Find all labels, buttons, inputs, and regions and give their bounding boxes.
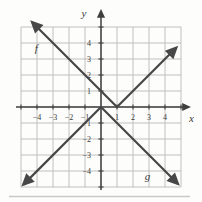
y-tick-label: −3 bbox=[82, 151, 91, 160]
x-tick-label: −3 bbox=[49, 113, 58, 122]
y-tick-label: 1 bbox=[87, 87, 91, 96]
y-axis-label: y bbox=[81, 7, 87, 19]
function-g-label: g bbox=[145, 170, 151, 182]
x-tick-label: −2 bbox=[65, 113, 74, 122]
y-tick-label: 4 bbox=[87, 39, 91, 48]
x-tick-label: 3 bbox=[147, 113, 151, 122]
graph-figure: −4−3−2−112344321−1−2−3−4fgxy bbox=[0, 0, 202, 202]
function-f-line bbox=[32, 22, 176, 107]
x-axis-label: x bbox=[188, 112, 194, 124]
x-tick-label: −4 bbox=[33, 113, 42, 122]
coordinate-plane: −4−3−2−112344321−1−2−3−4fgxy bbox=[0, 0, 202, 202]
y-tick-label: 3 bbox=[87, 55, 91, 64]
y-tick-label: −2 bbox=[82, 135, 91, 144]
function-f-label: f bbox=[35, 42, 40, 54]
x-tick-label: 2 bbox=[131, 113, 135, 122]
x-tick-label: 4 bbox=[163, 113, 167, 122]
y-tick-label: −4 bbox=[82, 167, 91, 176]
